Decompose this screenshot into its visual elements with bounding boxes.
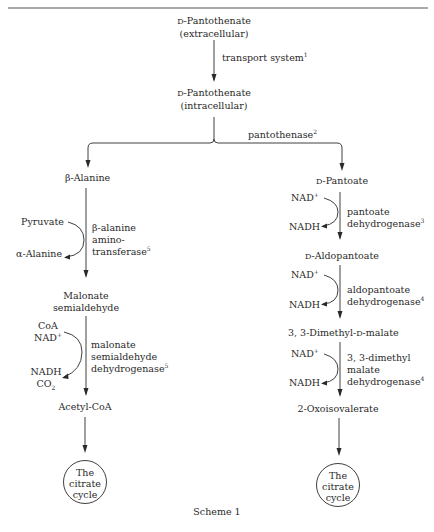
malonate-semialdehyde-dehydrogenase-label: malonate semialdehyde dehydrogenase5 [91, 339, 168, 375]
nadh-out-2: NADH [289, 299, 320, 311]
enzyme-line: dehydrogenase [347, 296, 421, 307]
footnote-ref: 5 [147, 245, 151, 252]
dimethylmalate-dehydrogenase-label: 3, 3-dimethyl malate dehydrogenase4 [347, 352, 424, 388]
scheme-caption: Scheme 1 [167, 506, 267, 518]
cycle-line: cycle [63, 489, 107, 500]
charge-sup: + [57, 331, 62, 338]
nad-in-2: NAD+ [291, 269, 319, 281]
enzyme-line: transferase [92, 246, 147, 257]
dimethyl-d-malate: 3, 3-Dimethyl-D-malate [288, 327, 399, 340]
charge-sup: + [314, 347, 319, 354]
footnote-ref: 4 [421, 295, 425, 302]
enzyme-line: malonate [91, 339, 168, 351]
location-label: (intracellular) [164, 100, 264, 112]
enzyme-line: β-alanine [92, 222, 151, 234]
compound-name: -Aldopantoate [311, 250, 378, 261]
nadh-co2-label: NADH CO2 [28, 366, 64, 390]
pantothenate-intracellular: D-Pantothenate (intracellular) [164, 87, 264, 112]
compound-name: -Pantothenate [184, 87, 251, 98]
enzyme-line: pantoate [347, 206, 424, 218]
nadh-label: NADH [28, 366, 64, 378]
compound-name: -Alanine [71, 172, 111, 183]
pyruvate-label: Pyruvate [21, 216, 64, 228]
citrate-cycle-right: The citrate cycle [316, 470, 360, 503]
nad-in-3: NAD+ [291, 348, 319, 360]
enzyme-line: dehydrogenase [91, 363, 165, 374]
cycle-line: The [316, 470, 360, 481]
enzyme-line: amino- [92, 234, 151, 246]
acetyl-coa: Acetyl-CoA [45, 401, 125, 413]
cycle-line: citrate [316, 481, 360, 492]
cycle-line: cycle [316, 492, 360, 503]
compound-line: semialdehyde [46, 302, 126, 314]
compound-name: -Pantoate [322, 175, 368, 186]
footnote-ref: 5 [165, 362, 169, 369]
compound-name: 3, 3-Dimethyl- [288, 327, 356, 338]
compound-name: -malate [363, 327, 399, 338]
aldopantoate-dehydrogenase-label: aldopantoate dehydrogenase4 [347, 284, 424, 308]
d-pantoate: D-Pantoate [316, 175, 368, 188]
oxoisovalerate: 2-Oxoisovalerate [288, 403, 388, 415]
d-aldopantoate: D-Aldopantoate [305, 250, 379, 263]
subscript: 2 [52, 384, 56, 391]
nad-label: NAD [291, 348, 314, 359]
transport-system-label: transport system1 [222, 52, 308, 64]
enzyme-line: dehydrogenase [347, 376, 421, 387]
enzyme-line: dehydrogenase [347, 218, 421, 229]
compound-name: -Pantothenate [184, 15, 251, 26]
nad-in-1: NAD+ [291, 192, 319, 204]
enzyme-name: transport system [222, 52, 304, 63]
nadh-out-3: NADH [289, 377, 320, 389]
enzyme-line: malate [347, 364, 424, 376]
enzyme-line: semialdehyde [91, 351, 168, 363]
enzyme-line: 3, 3-dimethyl [347, 352, 424, 364]
footnote-ref: 4 [421, 375, 425, 382]
footnote-ref: 2 [313, 128, 317, 135]
beta-alanine: β-Alanine [65, 172, 110, 184]
pantothenase-label: pantothenase2 [248, 129, 317, 141]
nad-label: NAD [34, 332, 57, 343]
alpha-alanine-label: α-Alanine [16, 248, 62, 260]
footnote-ref: 1 [304, 51, 308, 58]
nad-label: NAD [291, 269, 314, 280]
enzyme-name: pantothenase [248, 129, 313, 140]
enzyme-line: aldopantoate [347, 284, 424, 296]
nad-label: NAD [291, 192, 314, 203]
citrate-cycle-left: The citrate cycle [63, 467, 107, 500]
pantoate-dehydrogenase-label: pantoate dehydrogenase3 [347, 206, 424, 230]
co2-label: CO [37, 378, 52, 389]
pantothenate-extracellular: D-Pantothenate (extracellular) [164, 15, 264, 40]
malonate-semialdehyde: Malonate semialdehyde [46, 290, 126, 314]
arrow-head-icon [212, 74, 217, 82]
pathway-lines [0, 0, 434, 532]
charge-sup: + [314, 268, 319, 275]
beta-alanine-aminotransferase-label: β-alanine amino- transferase5 [92, 222, 151, 258]
location-label: (extracellular) [164, 28, 264, 40]
coa-nad-label: CoA NAD+ [30, 320, 66, 344]
charge-sup: + [314, 191, 319, 198]
nadh-out-1: NADH [289, 221, 320, 233]
cycle-line: The [63, 467, 107, 478]
cycle-line: citrate [63, 478, 107, 489]
footnote-ref: 3 [421, 217, 425, 224]
compound-line: Malonate [46, 290, 126, 302]
